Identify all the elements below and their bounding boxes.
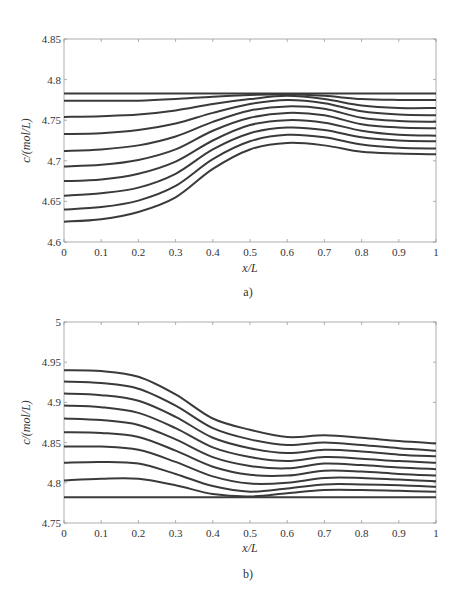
x-tick-label: 0.1 [94, 527, 108, 539]
x-tick-label: 1 [433, 527, 439, 539]
x-tick-label: 0.2 [132, 246, 146, 258]
x-tick-label: 0.7 [318, 246, 332, 258]
x-tick-label: 0.6 [280, 246, 294, 258]
data-series-curve-9 [64, 478, 436, 496]
data-series-curve-1 [64, 370, 436, 443]
y-axis-label: c/(mol/L) [19, 400, 33, 445]
y-tick-label: 4.85 [42, 437, 62, 449]
y-tick-label: 4.75 [42, 114, 62, 126]
x-tick-label: 0.4 [206, 527, 220, 539]
y-axis-label: c/(mol/L) [19, 118, 33, 163]
chart-panel-b: 00.10.20.30.40.50.60.70.80.914.754.84.85… [19, 316, 439, 581]
x-tick-label: 0.6 [280, 527, 294, 539]
x-tick-label: 0.3 [169, 246, 183, 258]
y-tick-label: 4.6 [47, 236, 61, 248]
y-tick-label: 4.7 [47, 155, 61, 167]
y-tick-label: 4.95 [42, 356, 62, 368]
panel-label: a) [243, 285, 252, 299]
x-tick-label: 0.4 [206, 246, 220, 258]
x-tick-label: 0.3 [169, 527, 183, 539]
y-tick-label: 4.8 [47, 477, 61, 489]
x-tick-label: 0.2 [132, 527, 146, 539]
y-tick-label: 4.85 [42, 33, 62, 45]
y-tick-label: 4.8 [47, 74, 61, 86]
data-series-curve-8 [64, 127, 436, 195]
figure: 00.10.20.30.40.50.60.70.80.914.64.654.74… [0, 0, 465, 604]
x-tick-label: 0.8 [355, 246, 369, 258]
x-axis-label: x/L [241, 541, 258, 555]
y-tick-label: 4.9 [47, 396, 61, 408]
y-tick-label: 5 [56, 316, 62, 328]
data-series-curve-10 [64, 143, 436, 222]
x-tick-label: 0.9 [392, 246, 406, 258]
x-tick-label: 0 [61, 527, 67, 539]
panel-label: b) [243, 567, 253, 581]
x-tick-label: 0 [61, 246, 67, 258]
y-tick-label: 4.75 [42, 517, 62, 529]
x-axis-label: x/L [241, 261, 258, 275]
y-tick-label: 4.65 [42, 195, 62, 207]
chart-panel-a: 00.10.20.30.40.50.60.70.80.914.64.654.74… [19, 33, 439, 299]
x-tick-label: 0.9 [392, 527, 406, 539]
x-tick-label: 0.1 [94, 246, 108, 258]
x-tick-label: 0.7 [318, 527, 332, 539]
data-series-curve-9 [64, 135, 436, 210]
data-series-curve-7 [64, 120, 436, 181]
x-tick-label: 0.8 [355, 527, 369, 539]
x-tick-label: 0.5 [243, 527, 257, 539]
x-tick-label: 1 [433, 246, 439, 258]
x-tick-label: 0.5 [243, 246, 257, 258]
